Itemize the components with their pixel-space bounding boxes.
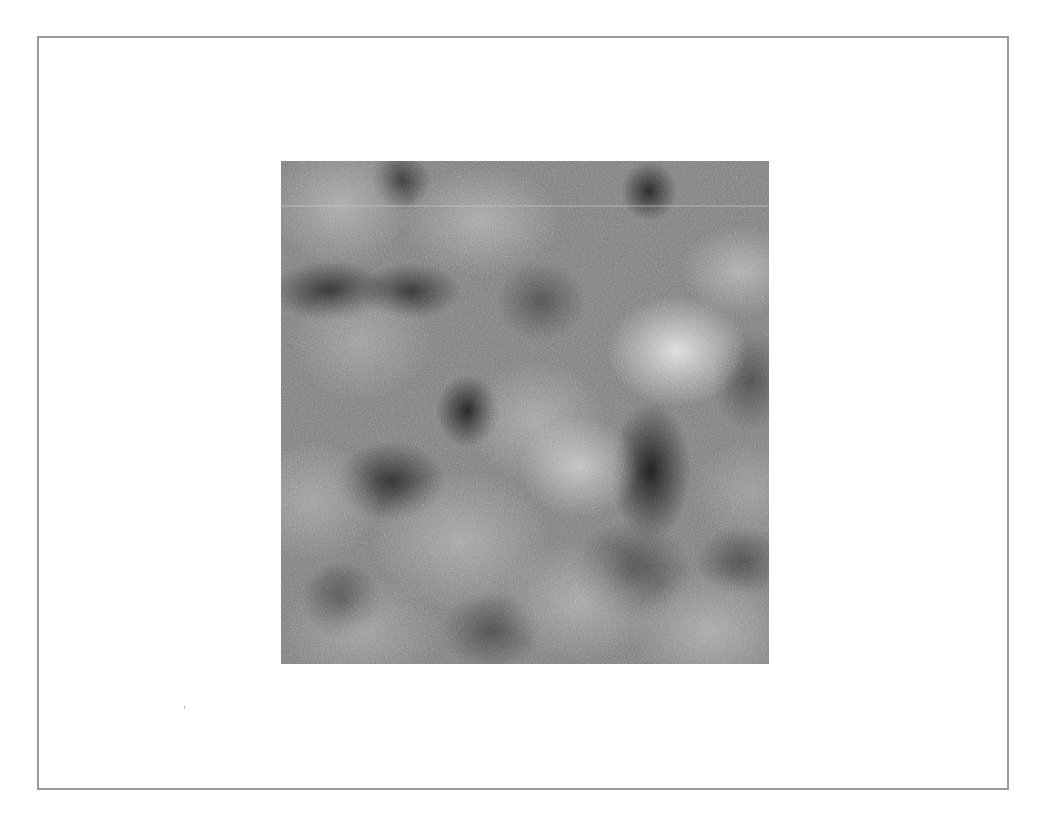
noise-texture-image bbox=[281, 161, 769, 664]
figure-canvas bbox=[0, 0, 1043, 832]
stray-pixel bbox=[184, 706, 185, 709]
grain-overlay bbox=[281, 161, 769, 664]
horizontal-line-artifact bbox=[281, 205, 769, 207]
